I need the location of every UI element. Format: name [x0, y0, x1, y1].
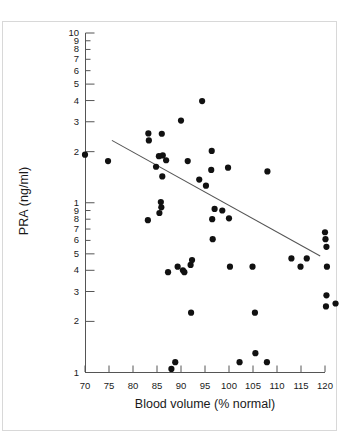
data-point [264, 359, 270, 365]
data-point [226, 215, 232, 221]
data-point [196, 176, 202, 182]
data-point [163, 157, 169, 163]
y-axis-title: PRA (ng/ml) [12, 130, 36, 280]
x-axis-tick-label: 95 [192, 380, 218, 391]
data-point [146, 137, 152, 143]
data-point [332, 300, 338, 306]
y-axis-tick-label: 3 [59, 116, 79, 127]
data-point [323, 244, 329, 250]
y-axis-tick-label: 2 [59, 315, 79, 326]
y-axis-title-text: PRA (ng/ml) [17, 126, 31, 276]
data-point [322, 229, 328, 235]
data-point [208, 167, 214, 173]
x-axis-tick-label: 115 [288, 380, 314, 391]
data-point [212, 206, 218, 212]
data-point [264, 168, 270, 174]
axis-lines [85, 33, 325, 373]
x-axis-tick-label: 120 [312, 380, 338, 391]
scatter-plot-canvas [0, 0, 360, 439]
y-axis-tick-label: 5 [59, 248, 79, 259]
data-point [323, 292, 329, 298]
x-axis-tick-label: 85 [144, 380, 170, 391]
y-axis-tick-label: 4 [59, 264, 79, 275]
chart-figure: 10987654321987654321 7075808590951001051… [0, 0, 360, 439]
data-point [181, 269, 187, 275]
data-point [159, 131, 165, 137]
data-point [153, 164, 159, 170]
x-axis-tick-label: 70 [72, 380, 98, 391]
data-point [209, 148, 215, 154]
data-point [188, 310, 194, 316]
data-point [168, 366, 174, 372]
data-point [158, 199, 164, 205]
data-point [82, 152, 88, 158]
data-point [172, 359, 178, 365]
data-point [219, 207, 225, 213]
y-axis-tick-label: 3 [59, 286, 79, 297]
data-point [249, 264, 255, 270]
data-point [288, 255, 294, 261]
data-point [185, 158, 191, 164]
x-axis-tick-label: 80 [120, 380, 146, 391]
y-axis-ticks [86, 33, 95, 373]
data-point [159, 173, 165, 179]
regression-line [112, 140, 320, 256]
y-axis-tick-label: 1 [59, 367, 79, 378]
data-point [175, 264, 181, 270]
x-axis-title-text: Blood volume (% normal) [85, 397, 325, 411]
data-point [165, 269, 171, 275]
x-axis-tick-label: 100 [216, 380, 242, 391]
y-axis-tick-label: 5 [59, 78, 79, 89]
data-point [322, 236, 328, 242]
data-point [105, 158, 111, 164]
data-point [145, 217, 151, 223]
y-axis-tick-label: 2 [59, 146, 79, 157]
data-point [324, 264, 330, 270]
data-point [178, 117, 184, 123]
data-point [203, 183, 209, 189]
x-axis-tick-label: 75 [96, 380, 122, 391]
data-point [209, 216, 215, 222]
data-point [225, 165, 231, 171]
data-point [297, 264, 303, 270]
y-axis-tick-label: 4 [59, 95, 79, 106]
data-point [227, 264, 233, 270]
x-axis-tick-label: 110 [264, 380, 290, 391]
data-point [145, 130, 151, 136]
y-axis-tick-label: 6 [59, 234, 79, 245]
data-point [304, 255, 310, 261]
x-axis-tick-label: 90 [168, 380, 194, 391]
y-axis-tick-label: 6 [59, 65, 79, 76]
data-point [252, 310, 258, 316]
data-point [199, 98, 205, 104]
data-point [158, 204, 164, 210]
x-axis-ticks [85, 366, 325, 373]
data-point [236, 359, 242, 365]
y-axis-tick-label: 7 [59, 223, 79, 234]
data-point [323, 303, 329, 309]
data-point [189, 257, 195, 263]
y-axis-tick-label: 7 [59, 53, 79, 64]
data-point [210, 236, 216, 242]
data-point [252, 350, 258, 356]
regression-line-segment [112, 140, 320, 256]
data-point [156, 210, 162, 216]
x-axis-tick-label: 105 [240, 380, 266, 391]
data-points [82, 98, 339, 372]
